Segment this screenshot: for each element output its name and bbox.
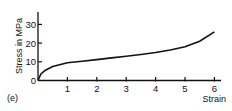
y-tick-label: 30 [25, 19, 36, 30]
panel-label: (e) [7, 93, 18, 103]
stress-strain-curve [38, 32, 214, 81]
x-tick-label: 6 [212, 83, 217, 94]
y-axis-label: Stress in MPa [14, 18, 24, 74]
y-tick-label: 0 [31, 75, 36, 86]
x-tick-label: 2 [94, 83, 99, 94]
x-tick-label: 4 [153, 83, 158, 94]
x-axis-label: Strain [202, 94, 226, 104]
x-tick-label: 5 [182, 83, 187, 94]
stress-strain-chart: 0102030 123456 Stress in MPa Strain (e) [0, 0, 232, 111]
x-tick-label: 1 [65, 83, 70, 94]
y-tick-label: 20 [25, 38, 36, 49]
y-tick-label: 10 [25, 56, 36, 67]
x-tick-label: 3 [124, 83, 129, 94]
x-ticks: 123456 [65, 77, 217, 94]
